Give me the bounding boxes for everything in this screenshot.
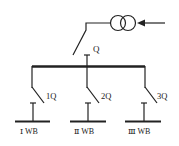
feeder-3: 3Q Ⅲ WB bbox=[125, 87, 167, 136]
main-busbar bbox=[32, 66, 145, 88]
feeder-switch-label: 3Q bbox=[157, 91, 167, 101]
feeder-switch-label: 2Q bbox=[101, 91, 111, 101]
feeder-bus-label: Ⅰ WB bbox=[20, 127, 38, 136]
feeder-1: 1Q Ⅰ WB bbox=[15, 87, 56, 136]
diagram-canvas: Q 1Q Ⅰ WB 2Q Ⅱ WB 3Q Ⅲ WB bbox=[0, 0, 179, 146]
arrow-left-icon bbox=[137, 20, 165, 27]
main-switch-label: Q bbox=[93, 44, 100, 54]
feeder-bus-label: Ⅲ WB bbox=[128, 127, 150, 136]
feeder-2: 2Q Ⅱ WB bbox=[70, 87, 111, 136]
feeder-bus-label: Ⅱ WB bbox=[74, 127, 94, 136]
feeder-switch-label: 1Q bbox=[46, 91, 56, 101]
main-switch: Q bbox=[73, 23, 111, 66]
transformer-icon bbox=[111, 16, 136, 31]
single-line-diagram: Q 1Q Ⅰ WB 2Q Ⅱ WB 3Q Ⅲ WB bbox=[0, 0, 179, 146]
